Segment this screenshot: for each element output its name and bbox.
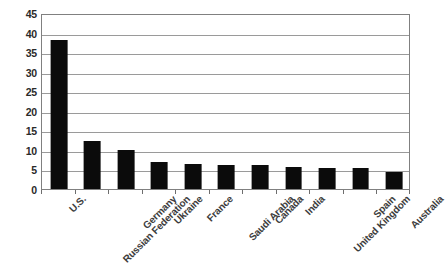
bar xyxy=(319,168,336,190)
bar-slot xyxy=(210,15,244,189)
bar xyxy=(185,164,202,189)
bar-slot xyxy=(143,15,177,189)
y-axis-tick-label: 5 xyxy=(17,165,37,176)
y-axis-tick-label: 10 xyxy=(17,146,37,157)
x-axis-category-label: France xyxy=(205,194,235,224)
y-axis-tick-label: 40 xyxy=(17,28,37,39)
y-axis-tick-label: 15 xyxy=(17,126,37,137)
x-axis-category-label: Australia xyxy=(409,194,445,230)
bar-slot xyxy=(310,15,344,189)
bar xyxy=(352,168,369,189)
bar xyxy=(252,165,269,189)
bar-slot xyxy=(277,15,311,189)
y-axis-tick-label: 45 xyxy=(17,9,37,20)
bar xyxy=(117,150,134,189)
y-axis-tick-label: 30 xyxy=(17,67,37,78)
bar xyxy=(84,141,101,189)
x-axis-category-label: India xyxy=(303,194,326,217)
bar-slot xyxy=(76,15,110,189)
bar-slot xyxy=(109,15,143,189)
y-axis-tick-label: 0 xyxy=(17,185,37,196)
bar xyxy=(285,167,302,189)
plot-area xyxy=(41,14,410,190)
x-axis-category-labels: U.S.Russian FederationGermanyUkraineFran… xyxy=(41,194,410,279)
bar xyxy=(151,162,168,189)
bar xyxy=(50,40,67,189)
bar-slot xyxy=(243,15,277,189)
bar-slot xyxy=(344,15,378,189)
bar-slot xyxy=(42,15,76,189)
y-axis-tick-label: 35 xyxy=(17,48,37,59)
bar-slot xyxy=(377,15,411,189)
bar xyxy=(386,172,403,189)
x-axis-category-label: U.S. xyxy=(67,194,87,214)
y-axis-tick-label: 20 xyxy=(17,107,37,118)
x-axis-category-label: Russian Federation xyxy=(122,194,193,265)
bar-slot xyxy=(176,15,210,189)
y-axis-tick-label: 25 xyxy=(17,87,37,98)
bars-group xyxy=(42,15,409,189)
y-axis-tick-labels: 454035302520151050 xyxy=(17,0,37,279)
bar xyxy=(218,165,235,189)
